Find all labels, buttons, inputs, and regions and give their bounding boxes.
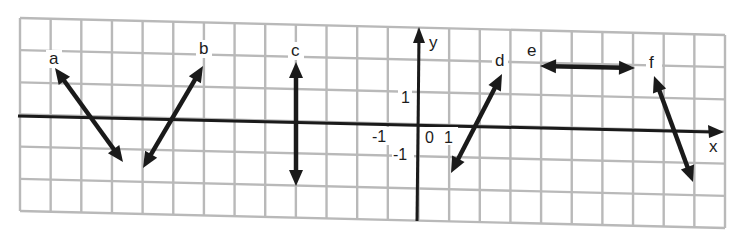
line-e-segment [552,66,623,67]
x-axis-label: x [709,137,718,156]
grid-horizontal-line [20,82,725,99]
grid-horizontal-line [20,18,725,35]
grid-horizontal-line [20,179,725,196]
line-d-segment [456,85,496,163]
graph-canvas: y x -1 0 1 1 -1 abcdef [0,0,742,238]
line-c: c [288,41,304,186]
arrowhead-icon [681,165,694,182]
y-tick-pos1: 1 [401,89,410,106]
grid-horizontal-line [20,147,725,164]
y-tick-neg1: -1 [393,146,407,163]
coordinate-grid-figure: y x -1 0 1 1 -1 abcdef [0,0,742,238]
y-axis-arrow-icon [413,27,425,43]
arrowhead-icon [289,62,303,78]
arrowhead-icon [289,170,303,186]
x-tick-pos1: 1 [444,129,453,146]
line-a-label: a [49,49,59,68]
arrowhead-icon [540,59,556,73]
line-c-label: c [291,41,300,60]
line-f-label: f [649,53,654,72]
line-b-label: b [199,39,208,58]
line-b: b [143,39,212,168]
line-e-label: e [527,41,536,60]
y-axis-label: y [429,33,438,52]
x-tick-neg1: -1 [372,128,386,145]
origin-label: 0 [425,129,434,146]
line-d-label: d [495,51,504,70]
grid-horizontal-line [20,211,725,228]
